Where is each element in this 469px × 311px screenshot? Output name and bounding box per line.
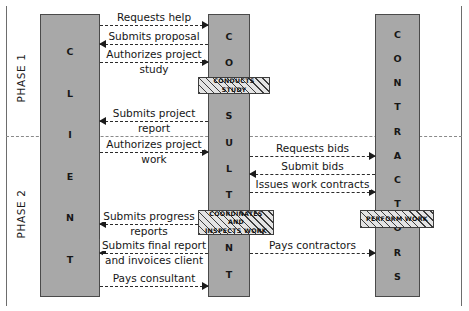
flow-line (100, 25, 208, 26)
actor-column-contractor[interactable]: C O N T R A C T O R S (375, 14, 420, 297)
actor-letter: L (67, 89, 73, 99)
flow-label: Requests bids (274, 142, 351, 155)
actor-letter: C (394, 175, 401, 185)
flow-label-second-line: work (139, 153, 168, 166)
actor-letter: O (225, 58, 233, 68)
activity-label-line2: INSPECTS WORK (205, 227, 267, 234)
activity-label: COORDINATES ANDINSPECTS WORK (199, 210, 273, 236)
flow-label: Submits final report (100, 239, 208, 252)
flow-label-second-line: study (137, 63, 170, 76)
arrowhead-right-icon (202, 282, 209, 290)
flow-label: Submits proposal (106, 30, 201, 43)
actor-label-client: C L I E N T (41, 15, 99, 296)
arrowhead-right-icon (202, 21, 209, 29)
flow-line (250, 253, 375, 254)
activity-label-line1: COORDINATES AND (209, 210, 262, 226)
actor-letter: S (226, 111, 233, 121)
arrowhead-right-icon (369, 152, 376, 160)
actor-letter: R (394, 248, 401, 258)
actor-letter: T (226, 190, 232, 200)
flow-line (250, 174, 375, 175)
actor-letter: E (67, 172, 74, 182)
flow-label-second-line: report (136, 122, 172, 135)
actor-letter: U (225, 138, 233, 148)
actor-letter: L (226, 164, 232, 174)
activity-label: CONDUCTS STUDY (199, 77, 269, 94)
actor-letter: R (394, 127, 401, 137)
flow-line (250, 192, 375, 193)
flow-label: Requests help (115, 11, 193, 24)
actor-letter: O (393, 54, 401, 64)
activity-label: PERFORM WORK (364, 215, 430, 224)
actor-letter: T (67, 255, 73, 265)
activity-box-coordinates-and-inspects-work[interactable]: COORDINATES ANDINSPECTS WORK (198, 210, 274, 235)
actor-label-consultant: C O N S U L T A N T (209, 15, 249, 296)
actor-letter: S (394, 272, 401, 282)
flow-line (100, 286, 208, 287)
actor-letter: N (394, 78, 402, 88)
actor-column-client[interactable]: C L I E N T (40, 14, 100, 297)
flow-label: Submits progress (101, 210, 196, 223)
process-flow-diagram: PHASE 1 PHASE 2 C L I E N T C O N S U L … (0, 0, 469, 311)
arrowhead-left-icon (99, 117, 106, 125)
actor-letter: C (226, 32, 233, 42)
actor-letter: A (394, 151, 401, 161)
flow-line (100, 44, 208, 45)
actor-letter: T (394, 199, 400, 209)
arrowhead-right-icon (369, 249, 376, 257)
flow-label: Submit bids (279, 160, 345, 173)
flow-label: Pays consultant (111, 272, 198, 285)
frame-rule-left (6, 6, 7, 306)
actor-letter: T (226, 270, 232, 280)
flow-label: Submits project (111, 107, 198, 120)
actor-letter: I (68, 130, 72, 140)
phase-label-2: PHASE 2 (15, 169, 27, 259)
flow-label-second-line: and invoices client (103, 254, 205, 267)
activity-box-conducts-study[interactable]: CONDUCTS STUDY (198, 77, 270, 94)
actor-letter: C (67, 47, 74, 57)
actor-letter: C (394, 30, 401, 40)
actor-letter: N (66, 213, 74, 223)
flow-label: Authorizes project (104, 138, 204, 151)
frame-rule-right (461, 6, 462, 306)
actor-column-consultant[interactable]: C O N S U L T A N T (208, 14, 250, 297)
activity-box-perform-work[interactable]: PERFORM WORK (360, 210, 434, 228)
actor-letter: T (394, 102, 400, 112)
actor-label-contractor: C O N T R A C T O R S (376, 15, 419, 296)
flow-label-second-line: reports (128, 225, 170, 238)
flow-label: Authorizes project (104, 48, 204, 61)
flow-line (250, 156, 375, 157)
phase-label-1: PHASE 1 (15, 33, 27, 123)
flow-label: Pays contractors (267, 239, 358, 252)
actor-letter: N (225, 243, 233, 253)
flow-label: Issues work contracts (254, 178, 372, 191)
